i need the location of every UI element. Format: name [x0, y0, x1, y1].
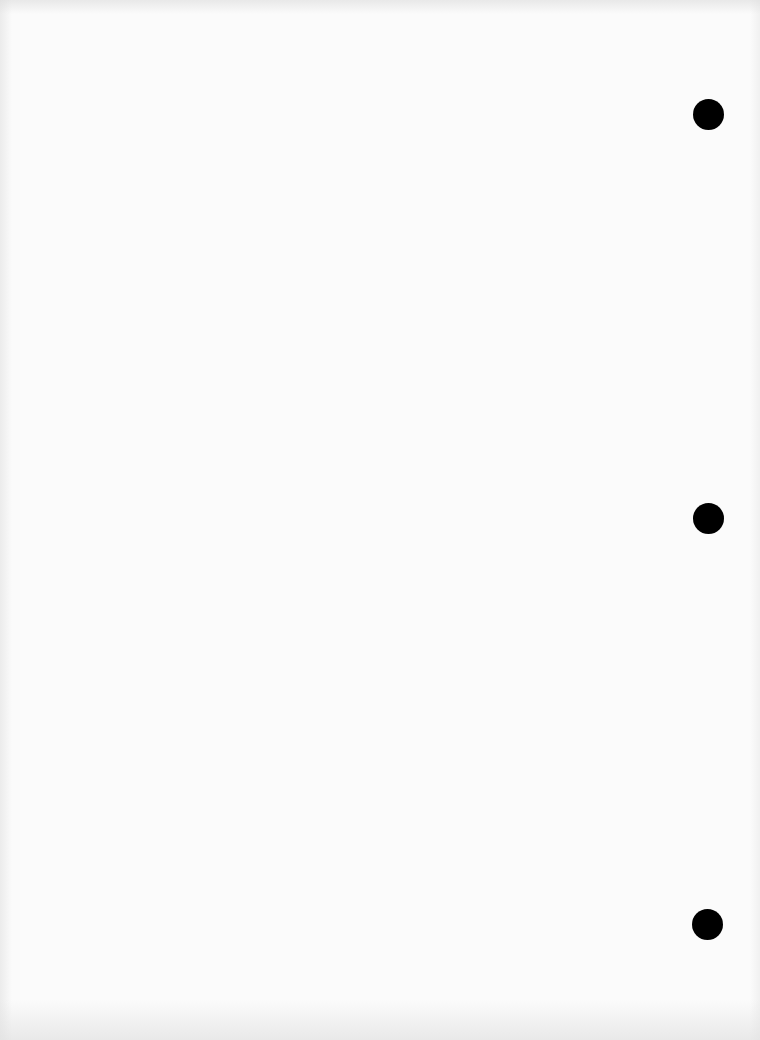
punch-hole-bottom	[692, 909, 723, 940]
punch-hole-top	[693, 99, 724, 130]
punch-hole-middle	[693, 503, 724, 534]
scanned-page	[0, 0, 760, 1040]
